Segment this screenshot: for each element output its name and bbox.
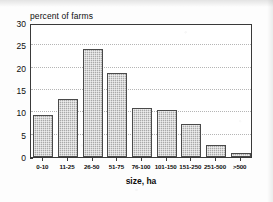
x-axis-tick-marks: [30, 158, 252, 162]
plot-area: [31, 25, 251, 157]
bar-chart: percent of farms 051015202530 0-1011-252…: [0, 0, 273, 202]
plot-frame: [30, 24, 252, 158]
y-tick-label: 5: [21, 131, 26, 141]
bar: [157, 110, 177, 157]
y-axis-title: percent of farms: [30, 11, 93, 21]
x-tick-label: 51-75: [109, 163, 124, 170]
bar: [231, 153, 251, 157]
x-tick-label: 76-100: [132, 163, 151, 170]
x-tick-mark: [166, 158, 167, 161]
x-tick-mark: [42, 158, 43, 161]
bar: [58, 99, 78, 157]
x-tick-label: 101-150: [155, 163, 177, 170]
bar: [206, 145, 226, 157]
bar: [107, 73, 127, 157]
x-tick-label: 151-250: [179, 163, 201, 170]
x-tick-mark: [190, 158, 191, 161]
x-tick-mark: [240, 158, 241, 161]
x-tick-label: 251-500: [204, 163, 226, 170]
x-tick-label: 26-50: [84, 163, 99, 170]
y-tick-label: 10: [17, 108, 26, 118]
x-axis-tick-labels: 0-1011-2526-5051-7576-100101-150151-2502…: [30, 163, 252, 175]
bar: [181, 124, 201, 158]
x-tick-mark: [215, 158, 216, 161]
y-tick-label: 0: [21, 153, 26, 163]
x-tick-mark: [141, 158, 142, 161]
y-axis-tick-labels: 051015202530: [6, 24, 26, 158]
y-tick-label: 20: [17, 64, 26, 74]
x-tick-label: 0-10: [36, 163, 48, 170]
x-tick-mark: [67, 158, 68, 161]
bar: [33, 115, 53, 157]
y-tick-label: 25: [17, 41, 26, 51]
bar: [132, 108, 152, 157]
y-tick-label: 30: [17, 19, 26, 29]
bar: [83, 49, 103, 157]
x-tick-mark: [116, 158, 117, 161]
x-axis-title: size, ha: [30, 176, 252, 186]
y-tick-label: 15: [17, 86, 26, 96]
bar-series: [31, 25, 251, 157]
x-tick-label: 11-25: [60, 163, 75, 170]
x-tick-mark: [92, 158, 93, 161]
x-tick-label: >500: [233, 163, 247, 170]
